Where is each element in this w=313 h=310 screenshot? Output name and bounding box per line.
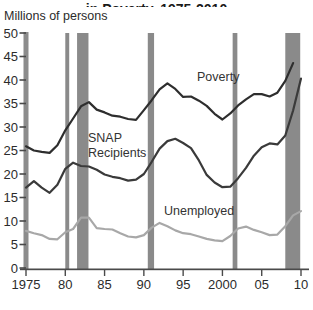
x-tick-label: 95 — [176, 277, 190, 292]
y-tick-label: 40 — [4, 73, 18, 88]
x-tick-label: 05 — [254, 277, 268, 292]
series-label-unemployed: Unemployed — [164, 204, 234, 219]
y-tick-label: 45 — [4, 49, 18, 64]
series-label-poverty: Poverty — [197, 70, 239, 85]
x-tick-label: 1975 — [12, 277, 41, 292]
y-tick-label: 35 — [4, 96, 18, 111]
y-tick-label: 25 — [4, 143, 18, 158]
x-tick-label: 2000 — [208, 277, 237, 292]
recession-band — [77, 33, 88, 270]
y-tick-label: 0 — [11, 261, 18, 276]
y-tick-label: 20 — [4, 167, 18, 182]
x-tick-label: 85 — [97, 277, 111, 292]
recession-band — [285, 33, 300, 270]
recession-band — [65, 33, 69, 270]
x-tick-label: 10 — [294, 277, 308, 292]
x-tick-label: 90 — [137, 277, 151, 292]
y-tick-label: 50 — [4, 26, 18, 41]
y-tick-label: 10 — [4, 214, 18, 229]
y-tick-label: 5 — [11, 237, 18, 252]
y-tick-label: 15 — [4, 190, 18, 205]
x-tick-label: 80 — [58, 277, 72, 292]
series-label-snap-recipients: SNAP Recipients — [88, 131, 168, 161]
x-axis-line — [20, 269, 309, 271]
y-tick-label: 30 — [4, 120, 18, 135]
chart: in Poverty, 1975-2010 Millions of person… — [0, 0, 313, 310]
